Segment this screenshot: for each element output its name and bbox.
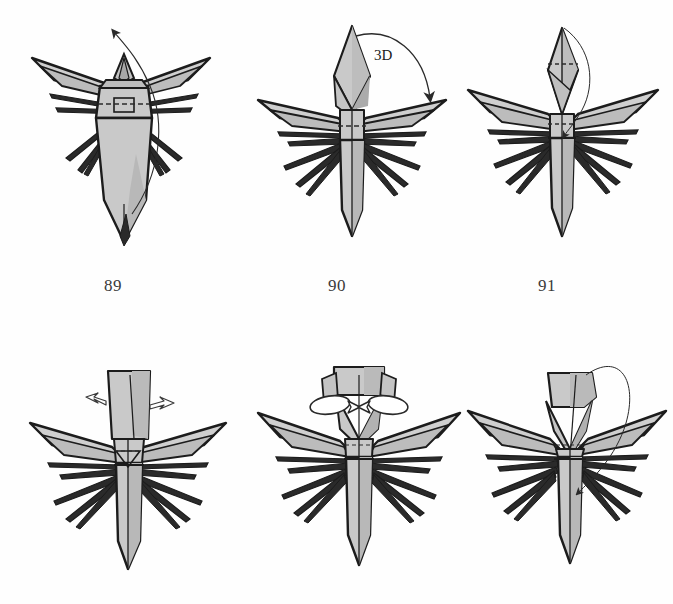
head-group: [334, 26, 370, 118]
body-group: [344, 439, 374, 565]
figure-step-92: [20, 355, 240, 595]
body-group: [114, 439, 144, 569]
figure-step-94: [462, 345, 673, 595]
head-group: [108, 371, 150, 439]
figure-89-drawing: [10, 14, 240, 264]
origami-diagram-page: 89: [0, 0, 673, 604]
head-group: [548, 28, 578, 114]
figure-90-drawing: 3D: [252, 14, 462, 264]
spread-arrow-right: [150, 397, 174, 409]
roll-arrow-right: [358, 393, 409, 416]
step-number-91: 91: [527, 276, 567, 296]
abdomen-group: [96, 118, 152, 246]
thorax-group: [96, 80, 152, 118]
body-group: [340, 110, 364, 236]
head-square-detail: [114, 98, 134, 112]
step-number-90: 90: [317, 276, 357, 296]
body-group: [548, 114, 576, 236]
figure-93-drawing: [252, 355, 467, 595]
roll-arrow-left: [309, 393, 360, 416]
spread-arrow-left: [86, 393, 106, 405]
step-number-89: 89: [93, 276, 133, 296]
figure-92-drawing: [20, 355, 240, 595]
body-group: [554, 449, 586, 563]
figure-step-90: 3D: [252, 14, 462, 264]
figure-94-drawing: [462, 345, 673, 595]
figure-step-89: [10, 14, 240, 264]
figure-step-91: [462, 14, 673, 264]
figure-91-drawing: [462, 14, 673, 264]
figure-step-93: [252, 355, 467, 595]
three-d-label: 3D: [374, 47, 393, 63]
